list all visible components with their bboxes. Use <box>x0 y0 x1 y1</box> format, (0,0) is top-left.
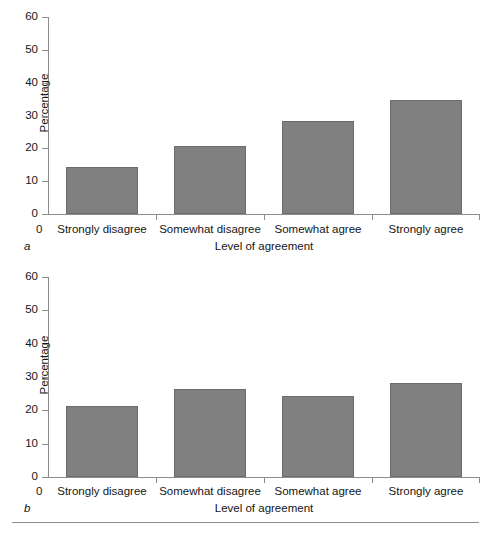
y-tick-label-b-20: 20 <box>25 402 38 417</box>
plot-area-b: Percentage 6050403020100 <box>48 277 480 478</box>
bar[interactable] <box>66 406 138 477</box>
y-tick-label-a-30: 30 <box>25 108 38 123</box>
category-label: Somewhat disagree <box>156 221 264 237</box>
figure-bottom-rule <box>12 522 479 523</box>
bar-slot <box>156 277 264 477</box>
category-label: Somewhat agree <box>264 483 372 499</box>
y-tick-label-b-0: 0 <box>32 469 38 484</box>
y-tick-a-0: 0 <box>42 214 48 215</box>
y-tick-label-a-40: 40 <box>25 75 38 90</box>
y-tick-label-a-10: 10 <box>25 173 38 188</box>
bar[interactable] <box>66 167 138 214</box>
bar[interactable] <box>282 396 354 477</box>
bar[interactable] <box>390 100 462 214</box>
category-label: Strongly disagree <box>48 221 156 237</box>
category-label: Somewhat agree <box>264 221 372 237</box>
category-label: Strongly disagree <box>48 483 156 499</box>
x-tick-separator <box>372 214 373 220</box>
category-label: Strongly agree <box>372 483 480 499</box>
y-tick-label-a-20: 20 <box>25 140 38 155</box>
origin-label-a: 0 <box>36 221 42 237</box>
bar-slot <box>264 17 372 214</box>
panel-letter-a: a <box>24 238 30 254</box>
bar[interactable] <box>282 121 354 214</box>
bar-slot <box>156 17 264 214</box>
y-tick-label-b-40: 40 <box>25 336 38 351</box>
y-tick-label-a-0: 0 <box>32 206 38 221</box>
category-label: Strongly agree <box>372 221 480 237</box>
x-tick-separator <box>264 214 265 220</box>
y-tick-label-b-50: 50 <box>25 302 38 317</box>
plot-area-a: Percentage 6050403020100 <box>48 17 480 215</box>
chart-panel-b: Percentage 6050403020100 0 Strongly disa… <box>0 268 485 535</box>
bar-slot <box>264 277 372 477</box>
origin-label-b: 0 <box>36 483 42 499</box>
y-tick-b-0: 0 <box>42 477 48 478</box>
bar-group-a <box>48 17 480 214</box>
bar[interactable] <box>174 146 246 214</box>
bar-slot <box>372 17 480 214</box>
category-label: Somewhat disagree <box>156 483 264 499</box>
x-axis-title-a: Level of agreement <box>48 238 480 254</box>
y-tick-label-b-30: 30 <box>25 369 38 384</box>
bar-slot <box>48 277 156 477</box>
y-tick-label-a-50: 50 <box>25 42 38 57</box>
figure-two-bar-charts: Percentage 6050403020100 0 Strongly disa… <box>0 0 485 535</box>
bar-slot <box>48 17 156 214</box>
chart-panel-a: Percentage 6050403020100 0 Strongly disa… <box>0 0 485 268</box>
x-tick-end <box>479 214 480 220</box>
x-tick-separator <box>156 214 157 220</box>
category-label-group-a: Strongly disagreeSomewhat disagreeSomewh… <box>48 221 480 237</box>
y-tick-label-b-10: 10 <box>25 436 38 451</box>
panel-letter-b: b <box>24 500 30 516</box>
y-tick-label-b-60: 60 <box>25 269 38 284</box>
category-label-group-b: Strongly disagreeSomewhat disagreeSomewh… <box>48 483 480 499</box>
y-tick-label-a-60: 60 <box>25 9 38 24</box>
bar-group-b <box>48 277 480 477</box>
bar[interactable] <box>390 383 462 477</box>
bar[interactable] <box>174 389 246 477</box>
x-axis-title-b: Level of agreement <box>48 500 480 516</box>
bar-slot <box>372 277 480 477</box>
